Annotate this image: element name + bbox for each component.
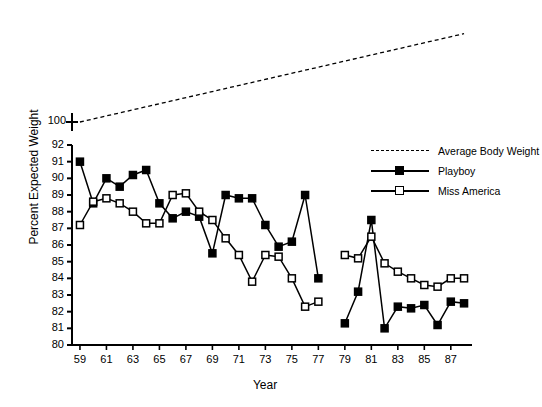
data-point (381, 325, 388, 332)
legend-item-miss-america: Miss America (371, 181, 539, 201)
x-axis-title: Year (205, 378, 325, 392)
data-point (209, 250, 216, 257)
x-tick-label-85: 85 (413, 353, 435, 365)
y-tick-label-88: 88 (38, 205, 64, 217)
series-miss-america (76, 190, 467, 310)
data-point (408, 305, 415, 312)
data-point (315, 275, 322, 282)
chart-plot-area (0, 0, 542, 407)
data-point (169, 192, 176, 199)
data-point (394, 268, 401, 275)
series-average-body-weight (80, 34, 464, 122)
data-point (90, 198, 97, 205)
x-tick-label-63: 63 (122, 353, 144, 365)
data-point (143, 220, 150, 227)
data-point (394, 303, 401, 310)
data-point (355, 288, 362, 295)
series-line-segment-1 (345, 237, 464, 287)
y-tick-label-81: 81 (38, 321, 64, 333)
y-tick-label-92: 92 (38, 138, 64, 150)
data-point (262, 252, 269, 259)
legend-item-playboy: Playboy (371, 161, 539, 181)
data-point (249, 195, 256, 202)
y-tick-label-90: 90 (38, 171, 64, 183)
data-point (288, 275, 295, 282)
chart-legend: Average Body Weight Playboy Miss America (371, 141, 539, 201)
y-tick-label-87: 87 (38, 221, 64, 233)
data-point (262, 222, 269, 229)
x-tick-label-59: 59 (69, 353, 91, 365)
data-point (341, 252, 348, 259)
data-point (302, 192, 309, 199)
data-point (421, 282, 428, 289)
data-point (315, 298, 322, 305)
data-point (103, 175, 110, 182)
data-point (116, 183, 123, 190)
data-point (461, 275, 468, 282)
data-point (434, 322, 441, 329)
data-point (76, 158, 83, 165)
y-tick-label-86: 86 (38, 238, 64, 250)
x-tick-label-61: 61 (95, 353, 117, 365)
x-tick-label-67: 67 (175, 353, 197, 365)
data-point (235, 252, 242, 259)
data-point (222, 192, 229, 199)
legend-label-average-body-weight: Average Body Weight (438, 145, 539, 157)
data-point (275, 253, 282, 260)
data-point (381, 260, 388, 267)
x-tick-label-87: 87 (440, 353, 462, 365)
data-point (447, 275, 454, 282)
data-point (302, 303, 309, 310)
data-point (447, 298, 454, 305)
data-point (434, 283, 441, 290)
data-point (156, 220, 163, 227)
data-point (129, 172, 136, 179)
data-point (143, 167, 150, 174)
data-point (235, 195, 242, 202)
data-point (355, 255, 362, 262)
x-tick-label-83: 83 (387, 353, 409, 365)
data-point (182, 208, 189, 215)
x-tick-label-71: 71 (228, 353, 250, 365)
filled-square-key (371, 164, 429, 178)
data-point (169, 215, 176, 222)
x-tick-label-81: 81 (360, 353, 382, 365)
legend-item-average-body-weight: Average Body Weight (371, 141, 539, 161)
data-point (461, 300, 468, 307)
data-point (288, 238, 295, 245)
data-point (222, 235, 229, 242)
y-tick-label-84: 84 (38, 271, 64, 283)
data-point (249, 278, 256, 285)
data-point (368, 233, 375, 240)
y-tick-label-89: 89 (38, 188, 64, 200)
data-point (209, 217, 216, 224)
x-tick-label-73: 73 (254, 353, 276, 365)
data-point (196, 208, 203, 215)
y-tick-label-80: 80 (38, 338, 64, 350)
y-tick-label-100: 100 (38, 114, 66, 126)
x-tick-label-77: 77 (307, 353, 329, 365)
data-point (129, 208, 136, 215)
chart-figure: Percent Expected Weight Year Average Bod… (0, 0, 542, 407)
data-point (368, 217, 375, 224)
data-point (275, 243, 282, 250)
dashed-line-key (371, 144, 429, 158)
y-tick-label-91: 91 (38, 155, 64, 167)
data-point (76, 222, 83, 229)
x-tick-label-65: 65 (148, 353, 170, 365)
legend-label-playboy: Playboy (438, 165, 475, 177)
data-point (103, 195, 110, 202)
data-point (182, 190, 189, 197)
data-point (421, 302, 428, 309)
x-tick-label-79: 79 (334, 353, 356, 365)
legend-label-miss-america: Miss America (438, 185, 500, 197)
x-tick-label-69: 69 (201, 353, 223, 365)
data-point (341, 320, 348, 327)
data-point (408, 275, 415, 282)
y-tick-label-85: 85 (38, 255, 64, 267)
y-tick-label-83: 83 (38, 288, 64, 300)
y-tick-label-82: 82 (38, 305, 64, 317)
data-point (156, 200, 163, 207)
open-square-key (371, 184, 429, 198)
data-point (116, 200, 123, 207)
